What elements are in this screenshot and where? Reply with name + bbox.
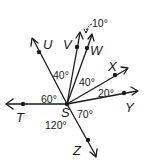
angle-TSU: 60°: [41, 93, 57, 105]
angle-VSW: 10°: [92, 17, 108, 29]
label-S: S: [61, 105, 70, 120]
point-T: [21, 102, 25, 106]
ten-degree-pointer-arrow-icon: [84, 29, 88, 33]
angle-XSY: 20°: [98, 87, 114, 99]
point-W: [85, 46, 89, 50]
point-Z: [86, 138, 90, 142]
angle-WSX: 40°: [79, 76, 95, 88]
label-V: V: [63, 37, 73, 52]
angle-diagram: S T U V W X Y Z 60° 40° 10° 40° 20° 70° …: [0, 0, 151, 160]
label-U: U: [43, 37, 53, 52]
angle-USV: 40°: [53, 69, 69, 81]
rays: [7, 33, 137, 156]
label-Y: Y: [125, 100, 135, 115]
angle-ZST: 120°: [45, 119, 67, 131]
label-Z: Z: [72, 143, 82, 158]
angle-YSZ: 70°: [77, 108, 93, 120]
point-U: [37, 50, 41, 54]
point-V: [75, 45, 79, 49]
point-Y: [122, 91, 126, 95]
label-T: T: [16, 110, 25, 125]
label-X: X: [107, 59, 118, 74]
label-W: W: [90, 43, 104, 58]
